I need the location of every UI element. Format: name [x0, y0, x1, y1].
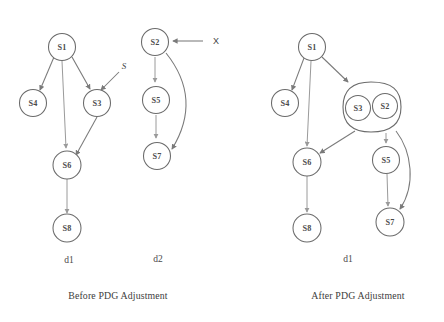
- edge-group-to-s7-right: [396, 131, 410, 209]
- node-s1-left: S1: [49, 34, 76, 61]
- panel-after-graph-d1: S1 S4 S3 S2 S6 S5: [272, 34, 411, 265]
- node-s4-right: S4: [272, 90, 299, 117]
- node-s8-left-label: S8: [62, 224, 71, 233]
- node-s7-mid: S7: [144, 143, 171, 170]
- node-s3-right: S3: [346, 96, 371, 121]
- node-s3-left-label: S3: [92, 99, 101, 108]
- edge-s3-to-s6-left: [76, 117, 97, 155]
- graph-name-d1-right: d1: [343, 254, 353, 264]
- node-s3-left: S3: [84, 90, 111, 117]
- edge-s1-to-s3-left: [72, 57, 90, 89]
- node-s5-mid-label: S5: [151, 96, 160, 105]
- edge-group-to-s6-right: [320, 131, 355, 153]
- node-s2-right: S2: [373, 94, 398, 119]
- node-s8-right: S8: [293, 214, 321, 242]
- node-s6-right: S6: [293, 148, 321, 176]
- node-s2-mid: S2: [142, 29, 169, 56]
- node-s5-right: S5: [373, 147, 400, 174]
- node-s1-right: S1: [299, 34, 326, 61]
- node-s5-right-label: S5: [381, 156, 390, 165]
- node-s1-left-label: S1: [57, 43, 66, 52]
- edge-s1-to-s6-left: [62, 61, 66, 148]
- edge-s1-to-s4-left: [40, 57, 54, 90]
- graph-name-d1-left: d1: [64, 255, 74, 265]
- external-label-s: S: [122, 61, 127, 71]
- edge-s1-to-group-right: [322, 57, 348, 82]
- edge-s1-to-s4-right: [292, 58, 304, 90]
- node-s7-right: S7: [376, 208, 404, 236]
- node-s4-right-label: S4: [280, 99, 289, 108]
- node-s6-left: S6: [53, 151, 81, 179]
- node-s6-right-label: S6: [302, 158, 311, 167]
- graph-name-d2-mid: d2: [153, 254, 163, 264]
- node-s1-right-label: S1: [307, 43, 316, 52]
- node-s2-right-label: S2: [380, 102, 389, 111]
- node-s3-right-label: S3: [353, 104, 362, 113]
- edge-s1-to-s6-right: [307, 61, 311, 146]
- external-label-x: X: [213, 36, 219, 46]
- caption-after-pdg: After PDG Adjustment: [311, 290, 404, 301]
- node-s7-right-label: S7: [385, 218, 394, 227]
- node-s7-mid-label: S7: [152, 152, 161, 161]
- node-s4-left: S4: [20, 90, 47, 117]
- node-s2-mid-label: S2: [150, 38, 159, 47]
- edge-s5-to-s7-right: [387, 174, 388, 206]
- pdg-adjustment-diagram: S1 S4 S3 S6 S8 S d1: [0, 0, 444, 322]
- node-s8-left: S8: [53, 214, 81, 242]
- figure-root: S1 S4 S3 S6 S8 S d1: [0, 0, 444, 322]
- node-s6-left-label: S6: [62, 161, 71, 170]
- caption-before-pdg: Before PDG Adjustment: [68, 290, 168, 301]
- panel-before-graph-d1: S1 S4 S3 S6 S8 S d1: [20, 34, 127, 266]
- node-s8-right-label: S8: [302, 224, 311, 233]
- edge-s-to-s3-left: [101, 72, 119, 90]
- panel-before-graph-d2: S2 S5 S7 X d2: [142, 29, 220, 265]
- node-s5-mid: S5: [143, 87, 170, 114]
- node-s4-left-label: S4: [28, 99, 37, 108]
